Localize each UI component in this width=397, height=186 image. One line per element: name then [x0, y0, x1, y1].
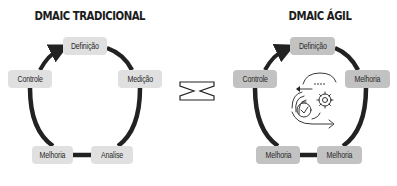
node-label: Melhoria [327, 150, 353, 160]
node-label: Melhoria [355, 74, 381, 84]
node-label: Controle [17, 74, 42, 84]
arc-controle-definicao-agile [265, 49, 286, 70]
node-label: Definição [299, 41, 327, 51]
agile-cycle [255, 48, 366, 155]
node-analise-traditional: Analise [91, 146, 133, 164]
arc-melhoria-melhoria-right [343, 88, 366, 146]
node-controle-traditional: Controle [8, 70, 52, 88]
traditional-cycle [30, 48, 140, 155]
node-medicao-traditional: Medição [118, 70, 162, 88]
arc-medicao-analise [118, 88, 140, 146]
node-controle-agile: Controle [233, 70, 277, 88]
node-label: Melhoria [265, 150, 291, 160]
versus-icon [180, 82, 214, 100]
node-label: Analise [101, 150, 123, 160]
node-label: Melhoria [40, 150, 66, 160]
node-melhoria-agile-right: Melhoria [345, 70, 390, 88]
arc-definicao-medicao [107, 48, 132, 70]
node-melhoria-traditional: Melhoria [32, 146, 73, 164]
node-label: Controle [242, 74, 267, 84]
node-definicao-agile: Definição [290, 37, 335, 55]
arc-melhoria-controle [30, 88, 53, 146]
node-melhoria-agile-bottom-right: Melhoria [317, 146, 362, 164]
node-definicao-traditional: Definição [63, 37, 107, 55]
arc-definicao-melhoria-agile [335, 48, 358, 70]
arc-controle-definicao [40, 49, 60, 70]
node-melhoria-agile-bottom-left: Melhoria [256, 146, 300, 164]
node-label: Definição [71, 41, 99, 51]
agile-cycle-clock-gear-icon [292, 73, 336, 128]
arc-melhoria-controle-agile [255, 88, 278, 146]
node-label: Medição [127, 74, 152, 84]
